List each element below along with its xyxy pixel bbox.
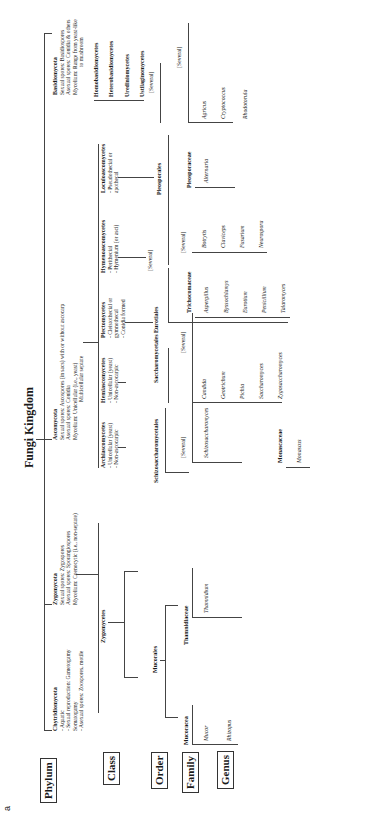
genus-zygosaccharomyces: Zygosaccharomyces bbox=[277, 352, 283, 399]
class-heterobasidiomycetes: Heterobasidiomycetes bbox=[108, 41, 115, 97]
order-schizosaccharomycetales: Schizosaccharomycetales bbox=[153, 419, 159, 483]
connector bbox=[118, 382, 126, 383]
phylum-zygomycota: Zygomycota Sexual spores: Zygospores Ase… bbox=[52, 513, 78, 605]
class-homobasidiomycetes: Homobasidiomycetes bbox=[93, 43, 100, 97]
connector bbox=[160, 63, 161, 123]
family-hymeno-several: [Several] bbox=[180, 232, 186, 253]
class-archiascomycetes: Archiascomycetes - Unicellular (yeast) -… bbox=[100, 422, 120, 468]
connector bbox=[168, 195, 169, 265]
connector bbox=[118, 177, 154, 178]
connector bbox=[94, 100, 144, 101]
class-ustilaginomycetes: Ustilaginomycetes bbox=[139, 51, 146, 97]
connector bbox=[192, 313, 193, 403]
connector bbox=[124, 677, 138, 678]
family-sacch-several: [Several] bbox=[180, 332, 186, 353]
rank-class: Class bbox=[103, 752, 120, 785]
order-saccharomycetales: Saccharomycetales bbox=[153, 334, 159, 383]
genus-geotrichum: Geotrichum bbox=[220, 371, 226, 399]
connector bbox=[165, 605, 178, 606]
genus-talaromyces: Talaromyces bbox=[280, 284, 286, 313]
genus-saccharomyces: Saccharomyces bbox=[258, 363, 264, 399]
class-plectomycetes: Plectomycetes - Cleistothecial or gymnot… bbox=[100, 298, 126, 338]
rank-family: Family bbox=[182, 752, 199, 793]
connector bbox=[168, 322, 288, 323]
connector bbox=[188, 23, 189, 123]
genus-botrytis: Botrytis bbox=[201, 230, 207, 248]
genus-penicillium: Penicillium bbox=[261, 286, 267, 313]
diagram-title: Fungi Kingdom bbox=[22, 387, 37, 468]
genus-thamnidium: Thamnidium bbox=[203, 584, 209, 613]
class-hemiascomycetes: Hemiascomycetes - Unicellular (yeast) - … bbox=[100, 358, 120, 403]
class-hymenoascomycetes: Hymenoascomycetes - Perithecial - Hymeni… bbox=[100, 220, 120, 273]
order-eurotiales: Eurotiales bbox=[153, 307, 159, 333]
connector bbox=[192, 744, 238, 745]
genus-candida: Candida bbox=[201, 379, 207, 399]
phylum-chytridiomycota: Chytridiomycota - Aquatic - Sexual repro… bbox=[52, 649, 85, 731]
family-pleosporaceae: Pleosporaceae bbox=[186, 152, 192, 188]
genus-rhodotorula: Rhodotorula bbox=[242, 90, 248, 119]
connector bbox=[44, 33, 52, 34]
order-pleosporales: Pleosporales bbox=[156, 163, 162, 195]
genus-pichia: Pichia bbox=[239, 384, 245, 399]
connector bbox=[83, 342, 98, 343]
order-basidio-several: [Several] bbox=[148, 72, 154, 93]
genus-claviceps: Claviceps bbox=[220, 225, 226, 248]
connector bbox=[286, 467, 310, 468]
genus-monascus: Monascus bbox=[296, 439, 302, 463]
connector bbox=[44, 604, 52, 605]
connector bbox=[188, 122, 233, 123]
connector bbox=[108, 622, 124, 623]
connector bbox=[192, 462, 242, 463]
connector bbox=[165, 606, 166, 718]
genus-cryptococcus: Cryptococcus bbox=[220, 87, 226, 119]
connector bbox=[98, 144, 99, 468]
family-basidio-several: [Several] bbox=[176, 47, 182, 68]
family-trichocomaceae: Trichocomaceae bbox=[186, 271, 192, 313]
phylum-bar bbox=[44, 34, 45, 731]
genus-mucor: Mucor bbox=[203, 726, 209, 741]
family-monascaceae: Monascaceae bbox=[277, 429, 283, 463]
class-urediniomycetes: Urediniomycetes bbox=[124, 54, 131, 97]
connector bbox=[192, 402, 282, 403]
connector bbox=[165, 717, 178, 718]
phylum-basidiomycota: Basidiomycota Sexual spores: Basidiospor… bbox=[52, 19, 85, 95]
connector bbox=[192, 705, 193, 745]
connector bbox=[192, 568, 193, 618]
connector bbox=[76, 574, 98, 575]
family-thamnidiaceae: Thamnidiaceae bbox=[183, 606, 189, 645]
connector bbox=[118, 447, 126, 448]
fungi-taxonomy-diagram: Fungi Kingdom a Phylum Class Order Famil… bbox=[0, 0, 384, 813]
connector bbox=[118, 257, 146, 258]
genus-fusarium: Fusarium bbox=[239, 225, 245, 248]
family-schizo-several: [Several] bbox=[180, 437, 186, 458]
genus-alternaria: Alternaria bbox=[203, 159, 209, 183]
connector bbox=[168, 135, 169, 195]
class-loculoascomycetes: Loculoascomycetes - Pseudothecial or apo… bbox=[100, 144, 120, 193]
figure-label: a bbox=[2, 806, 12, 811]
connector bbox=[165, 408, 166, 473]
rank-order: Order bbox=[151, 752, 168, 789]
connector bbox=[44, 439, 52, 440]
connector bbox=[36, 439, 44, 440]
genus-agricus: Agricus bbox=[201, 101, 207, 119]
connector bbox=[165, 472, 189, 473]
rank-genus: Genus bbox=[217, 751, 234, 789]
genus-byssochlamys: Byssochlamys bbox=[223, 280, 229, 313]
genus-rhizopus: Rhizopus bbox=[226, 720, 232, 741]
connector bbox=[192, 617, 242, 618]
genus-eurotium: Eurotium bbox=[242, 291, 248, 313]
rank-phylum: Phylum bbox=[40, 758, 57, 803]
genus-neurospora: Neurospora bbox=[258, 221, 264, 248]
connector bbox=[192, 252, 267, 253]
connector bbox=[168, 268, 169, 323]
order-hymeno-several: [Several] bbox=[147, 250, 153, 271]
family-mucoraceae: Mucoracea bbox=[183, 716, 189, 745]
connector bbox=[168, 348, 169, 403]
class-zygomycetes: Zygomycetes bbox=[100, 610, 107, 643]
phylum-ascomycota: Ascomycota Sexual spores: Ascospores (in… bbox=[52, 304, 85, 440]
connector bbox=[125, 322, 153, 323]
connector bbox=[124, 571, 138, 572]
connector bbox=[44, 730, 52, 731]
connector bbox=[124, 572, 125, 678]
order-mucorales: Mucorales bbox=[152, 646, 158, 673]
